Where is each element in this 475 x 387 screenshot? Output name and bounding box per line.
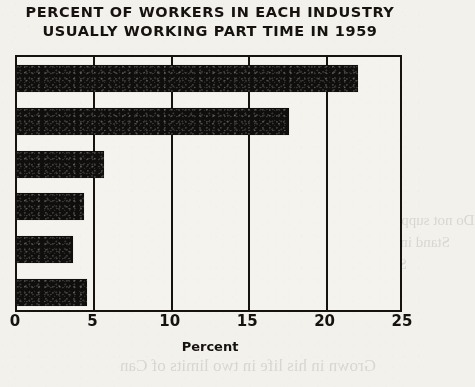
chart-title: PERCENT OF WORKERS IN EACH INDUSTRY USUA… bbox=[0, 3, 420, 41]
x-tick-20: 20 bbox=[314, 312, 335, 330]
bar bbox=[17, 108, 289, 135]
x-tick-5: 5 bbox=[87, 312, 97, 330]
x-tick-15: 15 bbox=[237, 312, 258, 330]
bar-series bbox=[17, 57, 400, 310]
bar bbox=[17, 193, 84, 220]
bar bbox=[17, 65, 358, 92]
x-tick-0: 0 bbox=[10, 312, 20, 330]
x-tick-25: 25 bbox=[392, 312, 413, 330]
chart-title-line-1: PERCENT OF WORKERS IN EACH INDUSTRY bbox=[0, 3, 420, 22]
bar bbox=[17, 279, 87, 306]
x-axis-label: Percent bbox=[0, 339, 420, 354]
x-tick-10: 10 bbox=[159, 312, 180, 330]
x-axis-tick-labels: 0510152025 bbox=[0, 312, 420, 336]
bar bbox=[17, 236, 73, 263]
plot-area bbox=[15, 55, 402, 312]
bar bbox=[17, 151, 104, 178]
chart-title-line-2: USUALLY WORKING PART TIME IN 1959 bbox=[0, 22, 420, 41]
